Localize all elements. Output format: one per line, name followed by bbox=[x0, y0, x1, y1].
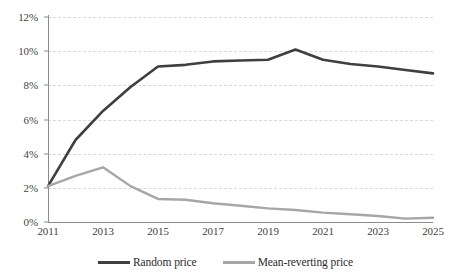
legend-line-swatch bbox=[98, 261, 130, 264]
line-chart-figure: 0%2%4%6%8%10%12% 20112013201520172019202… bbox=[0, 0, 451, 278]
legend-item[interactable]: Mean-reverting price bbox=[223, 256, 353, 268]
legend-line-swatch bbox=[223, 261, 255, 264]
legend-label: Mean-reverting price bbox=[258, 256, 353, 268]
legend-label: Random price bbox=[133, 256, 197, 268]
series-plot bbox=[0, 0, 451, 278]
series-line bbox=[48, 167, 433, 218]
chart-legend: Random priceMean-reverting price bbox=[0, 252, 451, 272]
series-line bbox=[48, 49, 433, 186]
legend-item[interactable]: Random price bbox=[98, 256, 197, 268]
